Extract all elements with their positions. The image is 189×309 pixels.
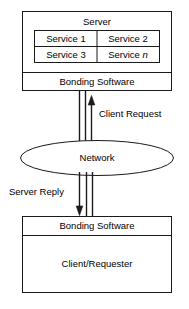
server-reply-label: Server Reply <box>9 186 64 197</box>
server-reply-arrow-head <box>76 206 83 216</box>
server-title: Server <box>83 16 111 27</box>
service-cell-1: Service 1 <box>46 33 86 44</box>
service-cell-2: Service 2 <box>108 33 148 44</box>
client-request-label: Client Request <box>99 108 161 119</box>
client-request-arrow-head <box>88 96 95 106</box>
client-bonding-software-label: Bonding Software <box>60 220 135 231</box>
diagram-root: Server Service 1 Service 2 Service 3 Ser… <box>0 0 189 309</box>
client-requester-label: Client/Requester <box>62 258 133 269</box>
service-cell-n-symbol: n <box>143 49 148 60</box>
service-cell-3: Service 3 <box>46 49 86 60</box>
service-cell-n: Service n <box>108 49 148 60</box>
server-bonding-software-label: Bonding Software <box>60 76 135 87</box>
network-label: Network <box>80 152 115 163</box>
service-cell-n-prefix: Service <box>108 49 142 60</box>
